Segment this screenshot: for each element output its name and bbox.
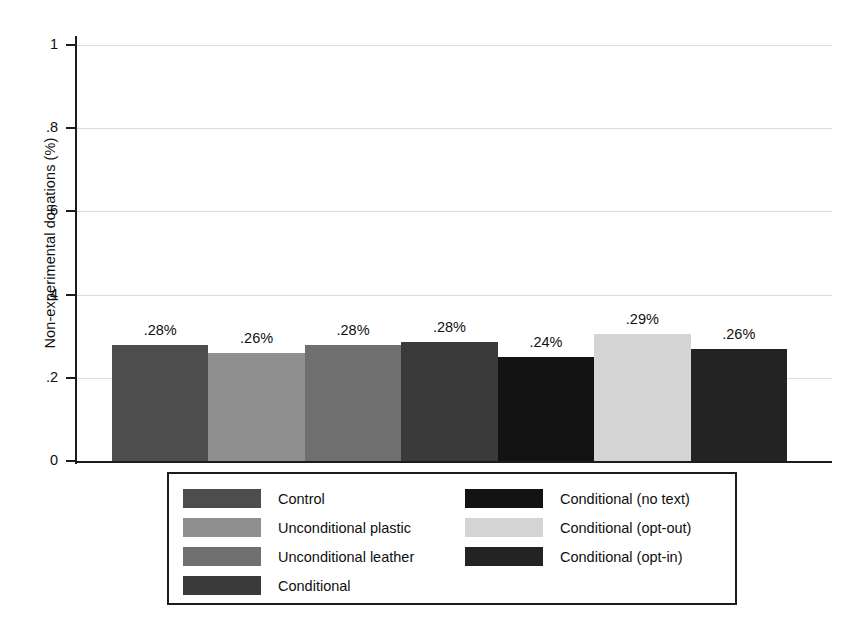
legend-item: Control — [183, 484, 414, 513]
bar-value-label: .28% — [401, 319, 497, 335]
legend-swatch — [465, 518, 543, 537]
bar-value-label: .26% — [691, 326, 787, 342]
legend-swatch — [183, 518, 261, 537]
legend-label: Unconditional leather — [278, 549, 414, 565]
bar — [112, 345, 208, 461]
legend-column-right: Conditional (no text)Conditional (opt-ou… — [465, 484, 691, 571]
bar-chart-figure: Non-experimental donations (%) 0.2.4.6.8… — [0, 0, 848, 636]
legend-item: Conditional (opt-in) — [465, 542, 691, 571]
bar — [208, 353, 304, 461]
bar — [691, 349, 787, 461]
legend-column-left: ControlUnconditional plasticUnconditiona… — [183, 484, 414, 600]
legend-swatch — [183, 547, 261, 566]
bar — [401, 342, 497, 461]
legend-label: Conditional (opt-in) — [560, 549, 683, 565]
bar — [498, 357, 594, 461]
legend-label: Conditional (opt-out) — [560, 520, 691, 536]
legend-swatch — [183, 576, 261, 595]
plot-area: .28%.26%.28%.28%.24%.29%.26% — [0, 0, 848, 462]
legend-label: Conditional — [278, 578, 351, 594]
legend-item: Conditional (opt-out) — [465, 513, 691, 542]
legend-swatch — [465, 489, 543, 508]
legend-item: Conditional (no text) — [465, 484, 691, 513]
legend-item: Unconditional plastic — [183, 513, 414, 542]
bar-value-label: .28% — [112, 322, 208, 338]
legend-label: Conditional (no text) — [560, 491, 690, 507]
legend-label: Unconditional plastic — [278, 520, 411, 536]
bar-value-label: .26% — [208, 330, 304, 346]
legend-swatch — [183, 489, 261, 508]
legend-label: Control — [278, 491, 325, 507]
bar-value-label: .28% — [305, 322, 401, 338]
legend-swatch — [465, 547, 543, 566]
legend-item: Unconditional leather — [183, 542, 414, 571]
bar — [594, 334, 690, 461]
legend: ControlUnconditional plasticUnconditiona… — [167, 472, 737, 605]
bar-value-label: .24% — [498, 334, 594, 350]
bar-value-label: .29% — [594, 311, 690, 327]
legend-item: Conditional — [183, 571, 414, 600]
bar — [305, 345, 401, 461]
